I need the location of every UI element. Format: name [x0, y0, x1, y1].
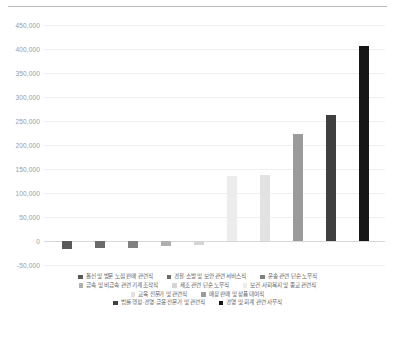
legend-swatch-icon	[260, 275, 265, 280]
legend-item[interactable]: 운송 관련 단순 노무직	[260, 274, 317, 280]
legend-row: 통신 및 방문 노점 판매 관련직경찰·소방 및 보안 관련 서비스직운송 관련…	[78, 274, 317, 280]
bar[interactable]	[194, 241, 204, 245]
legend-label: 보건·사회복지 및 종교 관련직	[250, 283, 316, 289]
legend-row: 법률·행정·경영·금융 전문가 및 관련직경영 및 회계 관련 사무직	[113, 300, 282, 306]
legend-label: 운송 관련 단순 노무직	[268, 274, 317, 280]
chart-legend: 통신 및 방문 노점 판매 관련직경찰·소방 및 보안 관련 서비스직운송 관련…	[0, 274, 395, 306]
legend-swatch-icon	[131, 292, 136, 297]
legend-item[interactable]: 금속 및 비금속 관련 기계 조작직	[79, 283, 158, 289]
legend-item[interactable]: 법률·행정·경영·금융 전문가 및 관련직	[113, 300, 205, 306]
legend-item[interactable]: 통신 및 방문 노점 판매 관련직	[78, 274, 152, 280]
legend-item[interactable]: 보건·사회복지 및 종교 관련직	[243, 283, 316, 289]
legend-label: 매장 판매 및 상품 대여직	[209, 292, 265, 298]
legend-swatch-icon	[243, 283, 248, 288]
legend-label: 경찰·소방 및 보안 관련 서비스직	[174, 274, 246, 280]
legend-row: 금속 및 비금속 관련 기계 조작직제조 관련 단순 노무직보건·사회복지 및 …	[79, 283, 316, 289]
legend-item[interactable]: 경찰·소방 및 보안 관련 서비스직	[167, 274, 247, 280]
legend-label: 제조 관련 단순 노무직	[180, 283, 229, 289]
legend-swatch-icon	[78, 275, 83, 280]
legend-swatch-icon	[172, 283, 177, 288]
bar[interactable]	[326, 115, 336, 241]
legend-item[interactable]: 교육 전문가 및 관련직	[131, 292, 188, 298]
bars-group	[0, 18, 395, 268]
bar[interactable]	[260, 175, 270, 241]
legend-item[interactable]: 경영 및 회계 관련 사무직	[219, 300, 282, 306]
bar[interactable]	[359, 46, 369, 241]
legend-swatch-icon	[201, 292, 206, 297]
legend-swatch-icon	[219, 301, 224, 306]
bar[interactable]	[95, 241, 105, 248]
legend-label: 교육 전문가 및 관련직	[138, 292, 187, 298]
bar[interactable]	[62, 241, 72, 249]
legend-label: 금속 및 비금속 관련 기계 조작직	[86, 283, 158, 289]
legend-swatch-icon	[113, 301, 118, 306]
legend-swatch-icon	[167, 275, 172, 280]
legend-label: 통신 및 방문 노점 판매 관련직	[86, 274, 153, 280]
bar-chart: 450,000400,000350,000300,000250,000200,0…	[0, 0, 395, 340]
legend-item[interactable]: 매장 판매 및 상품 대여직	[201, 292, 264, 298]
bar[interactable]	[293, 134, 303, 241]
legend-item[interactable]: 제조 관련 단순 노무직	[172, 283, 229, 289]
bar[interactable]	[128, 241, 138, 248]
legend-row: 교육 전문가 및 관련직매장 판매 및 상품 대여직	[131, 292, 265, 298]
legend-label: 법률·행정·경영·금융 전문가 및 관련직	[121, 300, 205, 306]
bar[interactable]	[227, 176, 237, 241]
bar[interactable]	[161, 241, 171, 246]
legend-label: 경영 및 회계 관련 사무직	[226, 300, 282, 306]
legend-swatch-icon	[79, 283, 84, 288]
plot-area: 450,000400,000350,000300,000250,000200,0…	[0, 18, 395, 268]
top-divider	[8, 6, 387, 7]
